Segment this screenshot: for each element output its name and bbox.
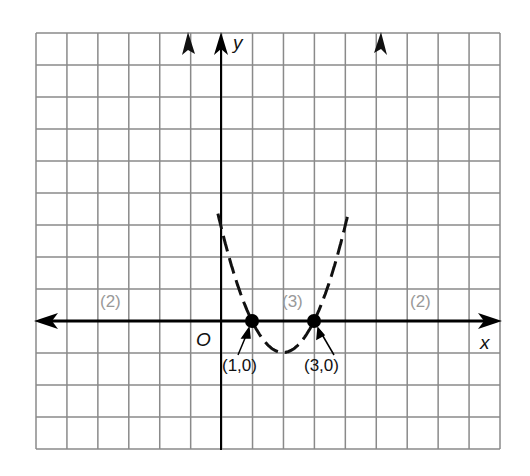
point-label-1-0: (1,0) (222, 357, 257, 374)
point-label-3-0: (3,0) (304, 357, 339, 374)
curve-arrow-left (182, 32, 195, 55)
x-axis (34, 313, 502, 329)
region-label-left: (2) (100, 293, 121, 310)
y-axis-label: y (233, 33, 243, 52)
region-label-right: (2) (410, 293, 431, 310)
region-label-mid: (3) (282, 293, 303, 310)
point-1-0 (245, 314, 259, 328)
point-3-0 (307, 314, 321, 328)
origin-label: O (196, 330, 211, 349)
x-axis-label: x (480, 333, 490, 352)
grid (36, 33, 500, 449)
graph-canvas (0, 0, 530, 476)
